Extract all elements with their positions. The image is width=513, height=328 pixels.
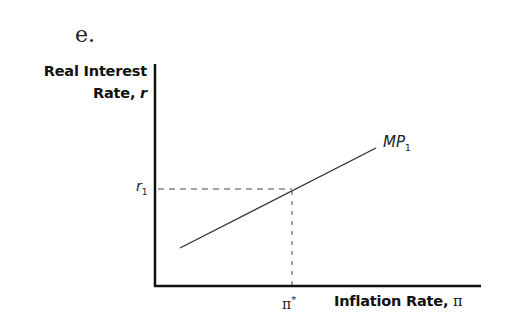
y-tick-r1: r1 — [136, 178, 148, 197]
x-axis-variable: π — [453, 293, 462, 309]
x-axis-label: Inflation Rate, π — [334, 293, 462, 309]
mp1-curve — [180, 148, 376, 248]
mp1-label: MP1 — [383, 133, 411, 153]
x-tick-pi-star: π* — [282, 294, 296, 312]
chart-canvas — [0, 0, 513, 328]
